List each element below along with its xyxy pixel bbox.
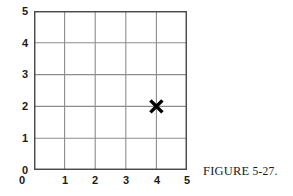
figure-caption: FIGURE 5-27.	[203, 164, 278, 179]
x-tick-label-2: 2	[83, 175, 107, 186]
y-tick-label-3: 3	[4, 69, 28, 80]
figure-caption-number: 5-27.	[253, 165, 278, 177]
x-tick-label-3: 3	[114, 175, 138, 186]
x-tick-label-1: 1	[53, 175, 77, 186]
y-tick-label-2: 2	[4, 101, 28, 112]
y-tick-label-1: 1	[4, 133, 28, 144]
plot-background	[34, 11, 187, 170]
y-tick-label-5: 5	[4, 6, 28, 17]
plot-area	[34, 11, 187, 170]
coordinate-grid	[34, 11, 187, 170]
x-tick-label-4: 4	[145, 175, 169, 186]
x-tick-label-5: 5	[175, 175, 199, 186]
figure-caption-label: FIGURE	[203, 164, 249, 178]
x-tick-label-0: 0	[10, 175, 34, 186]
y-tick-label-4: 4	[4, 38, 28, 49]
figure-container: 5 4 3 2 1 0 0 1 2 3 4 5 FIGURE 5-27.	[0, 0, 293, 196]
